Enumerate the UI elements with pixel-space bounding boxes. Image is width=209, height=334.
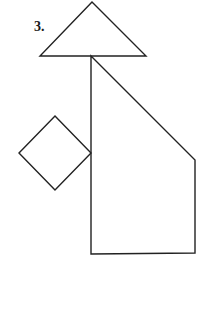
pentagon-shape [91,56,195,254]
diamond-shape [19,116,91,190]
triangle-shape [40,2,146,56]
geometric-figure [0,0,209,334]
